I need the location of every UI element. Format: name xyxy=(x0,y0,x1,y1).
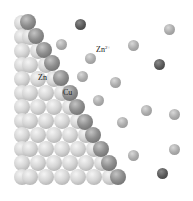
zn-atom xyxy=(22,169,38,185)
zn-ion xyxy=(77,71,88,82)
zn-ion-symbol: Zn xyxy=(96,45,105,54)
zn-ion xyxy=(128,150,139,161)
zn-ion xyxy=(157,168,168,179)
zn-cu-reaction-diagram: Zn Cu Zn2+ xyxy=(0,0,193,201)
cu-atom xyxy=(69,99,85,115)
zn-ion xyxy=(110,77,121,88)
zn-atom xyxy=(38,169,54,185)
zn-ion xyxy=(117,117,128,128)
zn-atom xyxy=(70,169,86,185)
zn-ion xyxy=(93,95,104,106)
zn-ion xyxy=(141,105,152,116)
cu-label: Cu xyxy=(63,89,72,97)
cu-atom xyxy=(44,55,60,71)
zn-ion xyxy=(169,144,180,155)
zn-ion xyxy=(75,19,86,30)
zn-ion xyxy=(164,24,175,35)
zn-label: Zn xyxy=(38,74,47,82)
zn-ion xyxy=(85,53,96,64)
zn-ion xyxy=(169,109,180,120)
cu-atom xyxy=(110,169,126,185)
zn-ion xyxy=(154,59,165,70)
zn-ion xyxy=(56,39,67,50)
zn-atom xyxy=(86,169,102,185)
zn-ion-charge: 2+ xyxy=(105,45,110,50)
cu-atom xyxy=(53,70,69,86)
zn-atom xyxy=(54,169,70,185)
zn-ion xyxy=(128,40,139,51)
zn-ion-label: Zn2+ xyxy=(96,45,110,54)
